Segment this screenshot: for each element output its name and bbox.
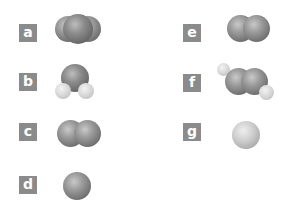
label-d: d [19, 176, 37, 194]
label-g: g [183, 123, 201, 141]
atom-icon [55, 83, 71, 99]
atom-icon [232, 121, 260, 149]
atom-icon [63, 14, 93, 44]
molecule-b [55, 64, 95, 100]
label-b: b [19, 73, 37, 91]
molecule-g [232, 121, 261, 150]
label-e: e [183, 24, 201, 42]
atom-icon [243, 15, 270, 42]
molecule-f [217, 63, 275, 101]
atom-icon [259, 85, 274, 100]
molecule-d [63, 172, 92, 201]
atom-icon [63, 172, 91, 200]
label-a: a [19, 24, 37, 42]
molecule-c [57, 120, 101, 148]
label-c: c [19, 123, 37, 141]
label-f: f [183, 74, 201, 92]
atom-icon [78, 83, 94, 99]
molecule-e [227, 15, 270, 43]
molecule-a [55, 14, 101, 44]
atom-icon [74, 120, 101, 147]
